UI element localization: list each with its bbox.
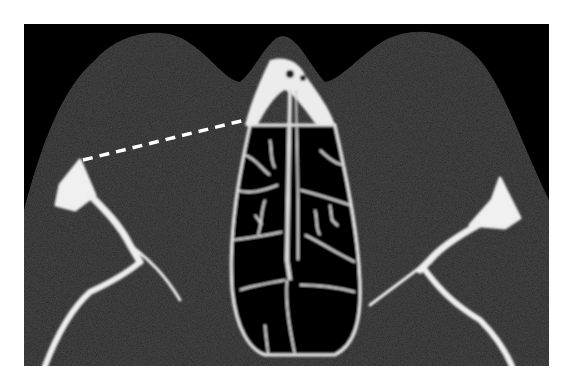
ct-image — [24, 24, 549, 366]
ct-scan-graphic — [24, 24, 549, 366]
